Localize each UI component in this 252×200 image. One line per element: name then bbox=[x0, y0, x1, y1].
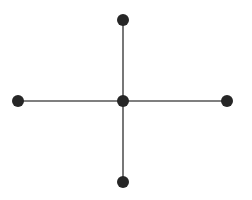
node-right bbox=[221, 95, 233, 107]
node-center bbox=[117, 95, 129, 107]
node-left bbox=[12, 95, 24, 107]
node-bottom bbox=[117, 176, 129, 188]
node-top bbox=[117, 14, 129, 26]
star-graph-diagram bbox=[0, 0, 252, 200]
